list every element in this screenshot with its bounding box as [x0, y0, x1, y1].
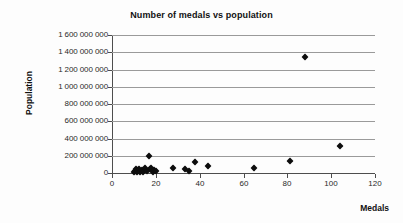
x-tick-label: 0 [92, 179, 132, 188]
plot-area [112, 35, 375, 173]
x-tick-label: 40 [180, 179, 220, 188]
x-tick-mark [287, 174, 288, 178]
y-tick-label: 400 000 000 [18, 134, 108, 143]
x-tick-label: 60 [224, 179, 264, 188]
y-tick-label: 1 600 000 000 [18, 30, 108, 39]
x-tick-label: 100 [311, 179, 351, 188]
data-point [170, 164, 177, 171]
y-tick-label: 1 000 000 000 [18, 82, 108, 91]
y-tick-label-group: 0200 000 000400 000 000600 000 000800 00… [14, 0, 108, 223]
data-point [146, 153, 153, 160]
y-tick-mark [108, 52, 112, 53]
gridline [112, 35, 375, 36]
y-tick-mark [108, 156, 112, 157]
gridline [112, 139, 375, 140]
gridline [112, 52, 375, 53]
scatter-chart: Number of medals vs population Populatio… [0, 0, 403, 223]
y-tick-mark [108, 121, 112, 122]
y-tick-mark [108, 70, 112, 71]
y-tick-mark [108, 35, 112, 36]
y-tick-label: 200 000 000 [18, 151, 108, 160]
x-tick-mark [112, 174, 113, 178]
gridline [112, 70, 375, 71]
data-point [205, 162, 212, 169]
x-tick-mark [244, 174, 245, 178]
y-tick-mark [108, 104, 112, 105]
x-tick-mark [331, 174, 332, 178]
gridline [112, 87, 375, 88]
gridline [112, 121, 375, 122]
y-tick-mark [108, 139, 112, 140]
x-tick-mark [156, 174, 157, 178]
y-tick-label: 0 [18, 168, 108, 177]
y-tick-label: 1 400 000 000 [18, 47, 108, 56]
y-tick-label: 800 000 000 [18, 99, 108, 108]
x-tick-label: 120 [355, 179, 395, 188]
x-tick-label: 20 [136, 179, 176, 188]
data-point [286, 158, 293, 165]
y-tick-label: 600 000 000 [18, 116, 108, 125]
x-tick-mark [375, 174, 376, 178]
data-point [336, 142, 343, 149]
y-tick-mark [108, 87, 112, 88]
x-tick-label: 80 [267, 179, 307, 188]
x-tick-mark [200, 174, 201, 178]
data-point [192, 158, 199, 165]
data-point [251, 164, 258, 171]
y-tick-label: 1 200 000 000 [18, 65, 108, 74]
data-point [301, 53, 308, 60]
gridline [112, 104, 375, 105]
